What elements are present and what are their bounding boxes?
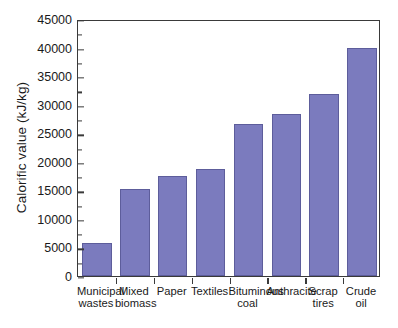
y-tick-minor	[78, 120, 82, 121]
y-tick-minor	[78, 206, 82, 207]
x-tick-label: Crudeoil	[342, 285, 380, 310]
y-tick-minor	[78, 177, 82, 178]
y-tick-major	[78, 77, 84, 78]
y-tick-major	[78, 249, 84, 250]
x-tick-label-line: Scrap	[304, 285, 342, 297]
bar	[196, 169, 226, 276]
y-tick-label: 5000	[16, 241, 72, 255]
x-tick	[230, 278, 231, 284]
y-tick-major	[78, 192, 84, 193]
y-tick-major	[78, 20, 84, 21]
y-tick-major	[78, 135, 84, 136]
y-tick-label: 0	[16, 270, 72, 284]
bar	[120, 189, 150, 276]
x-tick	[305, 278, 306, 284]
x-tick-label: Textiles	[191, 285, 229, 297]
bar	[158, 176, 188, 276]
bar	[347, 48, 377, 276]
x-tick-label-line: coal	[229, 297, 267, 309]
x-tick-label: Municipalwastes	[77, 285, 115, 310]
x-tick	[192, 278, 193, 284]
y-tick-label: 30000	[16, 99, 72, 113]
x-tick-label-line: Mixed	[115, 285, 153, 297]
x-tick-label-line: Bituminous	[229, 285, 267, 297]
x-tick-label: Paper	[153, 285, 191, 297]
x-tick-label: Mixedbiomass	[115, 285, 153, 310]
x-tick-label: Scraptires	[304, 285, 342, 310]
y-tick-major	[78, 163, 84, 164]
x-tick-label-line: Paper	[153, 285, 191, 297]
x-tick	[154, 278, 155, 284]
x-tick-label-line: tires	[304, 297, 342, 309]
x-tick-label: Anthracite	[266, 285, 304, 297]
x-tick-label-line: Textiles	[191, 285, 229, 297]
x-tick-label-line: oil	[342, 297, 380, 309]
bar	[272, 114, 302, 276]
y-tick-major	[78, 49, 84, 50]
y-tick-minor	[78, 235, 82, 236]
y-tick-label: 45000	[16, 13, 72, 27]
bar	[234, 124, 264, 276]
y-tick-minor	[78, 63, 82, 64]
y-tick-major	[78, 106, 84, 107]
y-tick-minor	[78, 263, 82, 264]
y-tick-label: 40000	[16, 42, 72, 56]
plot-area	[77, 20, 380, 277]
y-tick-label: 25000	[16, 127, 72, 141]
bar	[82, 243, 112, 276]
x-tick	[116, 278, 117, 284]
x-tick-label-line: wastes	[77, 297, 115, 309]
x-tick-label: Bituminouscoal	[229, 285, 267, 310]
x-tick	[267, 278, 268, 284]
x-tick	[343, 278, 344, 284]
y-tick-minor	[78, 92, 82, 93]
y-tick-label: 20000	[16, 156, 72, 170]
calorific-value-bar-chart: Calorific value (kJ/kg) 0500010000150002…	[0, 0, 398, 328]
y-tick-label: 15000	[16, 184, 72, 198]
x-tick-label-line: Crude	[342, 285, 380, 297]
x-tick-label-line: Municipal	[77, 285, 115, 297]
y-tick-major	[78, 220, 84, 221]
bar	[309, 94, 339, 276]
y-tick-minor	[78, 149, 82, 150]
y-tick-label: 35000	[16, 70, 72, 84]
y-tick-minor	[78, 35, 82, 36]
y-tick-major	[78, 277, 84, 278]
x-tick-label-line: Anthracite	[266, 285, 304, 297]
x-tick-label-line: biomass	[115, 297, 153, 309]
y-tick-label: 10000	[16, 213, 72, 227]
